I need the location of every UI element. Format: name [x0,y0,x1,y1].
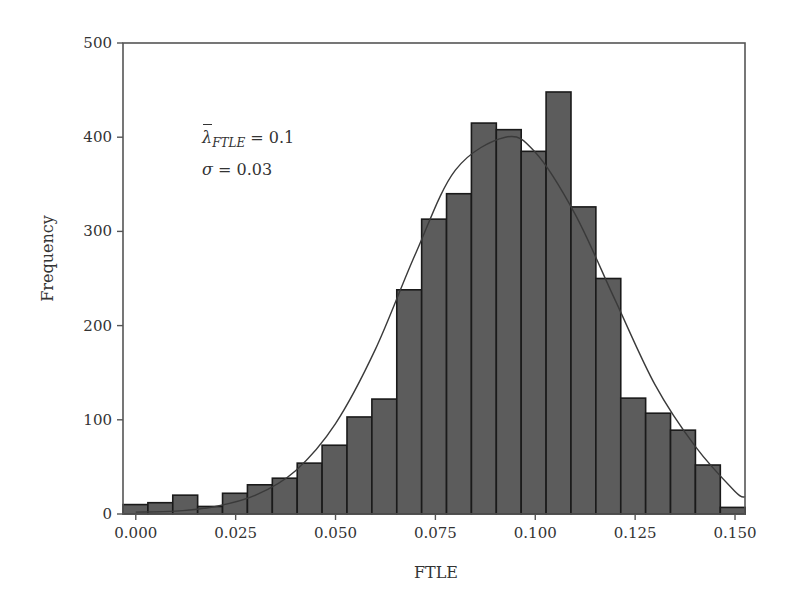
histogram-bar [646,413,671,514]
y-tick-label: 500 [83,34,112,52]
histogram-bar [447,194,472,514]
histogram-bar [272,478,297,514]
sigma-annotation: σ = 0.03 [202,160,272,179]
histogram-bars [123,92,745,514]
x-axis: 0.0000.0250.0500.0750.1000.1250.150 [114,514,756,542]
x-tick-label: 0.100 [514,524,557,542]
histogram-bar [471,123,496,514]
y-tick-label: 100 [83,411,112,429]
histogram-bar [546,92,571,514]
histogram-bar [372,399,397,514]
y-tick-label: 0 [102,505,112,523]
histogram-bar [720,507,745,514]
x-axis-title: FTLE [414,563,458,582]
x-tick-label: 0.025 [214,524,257,542]
lambda-bar-symbol: λ [202,128,212,147]
x-tick-label: 0.000 [114,524,157,542]
mean-value: = 0.1 [245,128,294,147]
x-tick-label: 0.150 [714,524,757,542]
sigma-value: = 0.03 [213,160,272,179]
mean-annotation: λFTLE = 0.1 [202,128,294,150]
histogram-bar [322,445,347,514]
histogram-bar [397,290,422,514]
y-axis: 0100200300400500 [83,34,123,523]
y-tick-label: 200 [83,317,112,335]
histogram-bar [596,279,621,515]
histogram-bar [422,219,447,514]
y-tick-label: 400 [83,128,112,146]
histogram-bar [496,130,521,514]
x-tick-label: 0.075 [414,524,457,542]
histogram-bar [521,151,546,514]
x-tick-label: 0.125 [614,524,657,542]
y-tick-label: 300 [83,222,112,240]
histogram-bar [297,463,322,514]
y-axis-title: Frequency [38,215,57,302]
histogram-chart: 0100200300400500 0.0000.0250.0500.0750.1… [0,0,790,613]
histogram-bar [571,207,596,514]
histogram-bar [621,398,646,514]
histogram-bar [347,417,372,514]
x-tick-label: 0.050 [314,524,357,542]
mean-subscript: FTLE [212,136,245,150]
sigma-symbol: σ [202,160,213,179]
